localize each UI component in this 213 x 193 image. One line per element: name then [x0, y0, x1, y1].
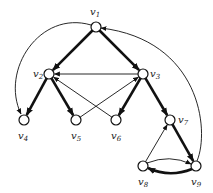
edge-v1-v2: [53, 31, 93, 71]
label-v2: v2: [33, 68, 44, 81]
edge-v3-v7: [146, 78, 168, 115]
node-v4: [19, 115, 29, 125]
label-v3: v3: [150, 68, 161, 81]
node-v1: [91, 22, 101, 32]
nodes-layer: v1v2v3v4v5v6v7v8v9: [18, 6, 202, 189]
edge-v2-v5: [52, 78, 74, 115]
label-v8: v8: [138, 176, 149, 189]
label-v7: v7: [178, 114, 189, 127]
edge-v8-v9: [147, 159, 191, 164]
node-v7: [165, 115, 175, 125]
label-v5: v5: [71, 130, 82, 143]
edge-v2-v4: [27, 78, 47, 115]
label-v9: v9: [191, 176, 202, 189]
label-v6: v6: [111, 130, 122, 143]
edge-v7-v9: [172, 124, 193, 161]
graph-diagram: v1v2v3v4v5v6v7v8v9: [0, 0, 213, 193]
node-v3: [138, 69, 148, 79]
edge-v9-v8: [148, 168, 192, 173]
graph-svg: v1v2v3v4v5v6v7v8v9: [0, 0, 213, 193]
node-v6: [111, 115, 121, 125]
edge-v3-v6: [119, 78, 141, 115]
node-v2: [44, 69, 54, 79]
node-v5: [71, 115, 81, 125]
label-v1: v1: [90, 6, 100, 19]
node-v8: [138, 161, 148, 171]
edge-v8-v7: [146, 125, 168, 162]
label-v4: v4: [18, 130, 28, 143]
node-v9: [191, 161, 201, 171]
edges-layer: [15, 23, 201, 174]
edge-v1-v3: [100, 31, 140, 71]
